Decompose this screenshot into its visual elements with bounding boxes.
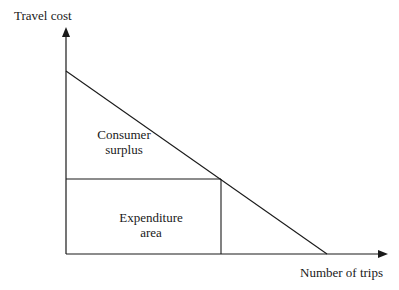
consumer-surplus-line2: surplus — [76, 142, 172, 157]
consumer-surplus-line1: Consumer — [76, 127, 172, 142]
x-axis-label: Number of trips — [300, 265, 383, 280]
expenditure-line1: Expenditure — [96, 210, 206, 225]
y-axis-arrow-icon — [62, 27, 70, 37]
demand-diagram — [0, 0, 399, 290]
x-axis-arrow-icon — [378, 250, 388, 258]
expenditure-area-label: Expenditure area — [96, 210, 206, 240]
y-axis-label: Travel cost — [14, 8, 72, 23]
expenditure-line2: area — [96, 225, 206, 240]
consumer-surplus-label: Consumer surplus — [76, 127, 172, 157]
